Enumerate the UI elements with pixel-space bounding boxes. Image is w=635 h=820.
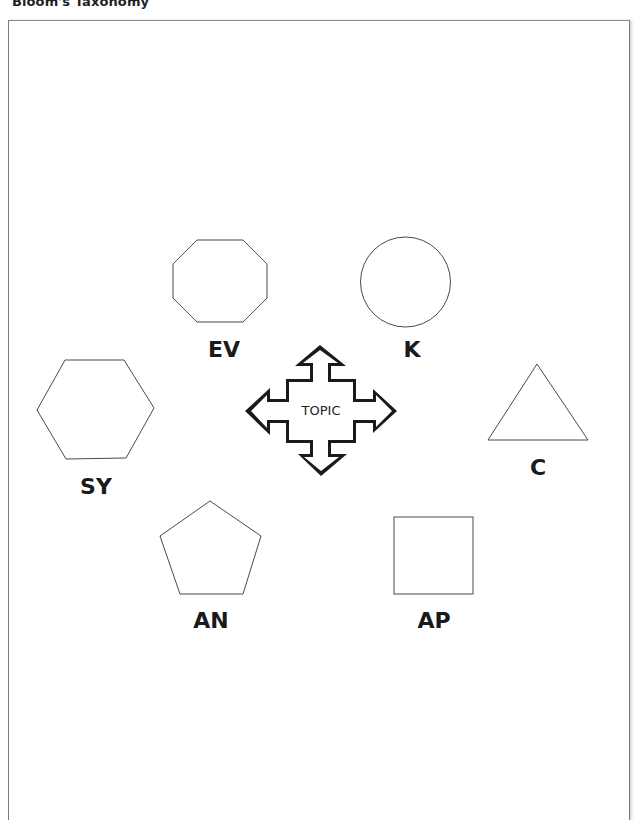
analysis-label: AN	[193, 610, 228, 632]
octagon-shape	[173, 240, 267, 322]
evaluation-label: EV	[208, 339, 240, 361]
knowledge-label: K	[403, 339, 420, 361]
synthesis-label: SY	[80, 476, 112, 498]
comprehension-label: C	[530, 457, 546, 479]
square-shape	[394, 517, 473, 594]
triangle-shape	[488, 364, 588, 440]
hexagon-shape	[37, 360, 154, 459]
circle-shape	[361, 237, 451, 327]
pentagon-shape	[160, 501, 261, 594]
topic-label: TOPIC	[302, 404, 341, 417]
application-label: AP	[417, 610, 450, 632]
